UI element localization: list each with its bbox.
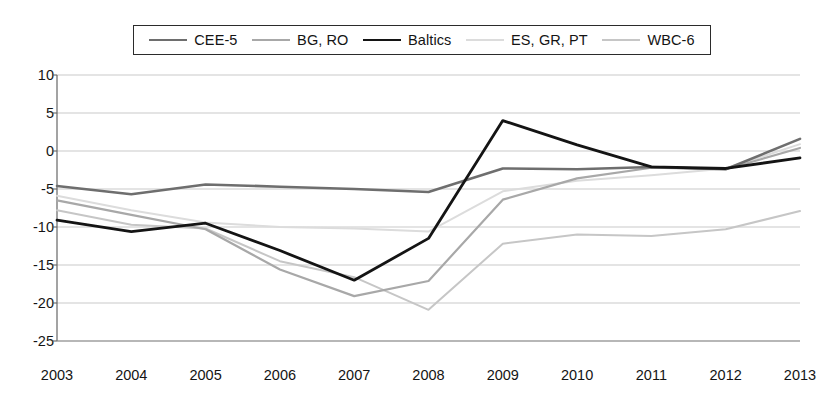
legend-swatch-wbc-6	[602, 39, 640, 41]
series-lines	[57, 121, 800, 310]
x-tick-label: 2009	[468, 367, 538, 383]
series-line-bg-ro	[57, 148, 800, 296]
gridlines	[57, 75, 800, 341]
legend-swatch-bg-ro	[252, 39, 290, 41]
legend-item-cee-5[interactable]: CEE-5	[149, 32, 237, 48]
axis-lines	[52, 75, 800, 341]
series-line-es-gr-pt	[57, 144, 800, 231]
legend-item-es-gr-pt[interactable]: ES, GR, PT	[466, 32, 588, 48]
legend-label-baltics: Baltics	[408, 32, 451, 48]
line-chart: CEE-5 BG, RO Baltics ES, GR, PT WBC-6 10…	[0, 0, 817, 397]
x-tick-label: 2004	[96, 367, 166, 383]
x-tick-label: 2012	[691, 367, 761, 383]
series-line-baltics	[57, 121, 800, 281]
series-line-wbc-6	[57, 210, 800, 310]
legend-label-cee-5: CEE-5	[194, 32, 237, 48]
legend-swatch-cee-5	[149, 39, 187, 41]
x-tick-label: 2005	[171, 367, 241, 383]
x-tick-label: 2011	[616, 367, 686, 383]
x-axis: 2003200420052006200720082009201020112012…	[0, 361, 817, 391]
x-tick-label: 2013	[765, 367, 817, 383]
x-tick-label: 2007	[319, 367, 389, 383]
chart-legend: CEE-5 BG, RO Baltics ES, GR, PT WBC-6	[133, 25, 711, 55]
legend-label-bg-ro: BG, RO	[297, 32, 348, 48]
legend-item-bg-ro[interactable]: BG, RO	[252, 32, 348, 48]
x-tick-label: 2010	[542, 367, 612, 383]
legend-item-baltics[interactable]: Baltics	[363, 32, 451, 48]
legend-swatch-es-gr-pt	[466, 39, 504, 41]
legend-label-wbc-6: WBC-6	[647, 32, 694, 48]
legend-swatch-baltics	[363, 39, 401, 41]
legend-item-wbc-6[interactable]: WBC-6	[602, 32, 694, 48]
plot-svg	[0, 60, 817, 360]
x-tick-label: 2008	[394, 367, 464, 383]
legend-label-es-gr-pt: ES, GR, PT	[511, 32, 588, 48]
x-tick-label: 2003	[22, 367, 92, 383]
plot-area	[0, 60, 817, 360]
x-tick-label: 2006	[245, 367, 315, 383]
